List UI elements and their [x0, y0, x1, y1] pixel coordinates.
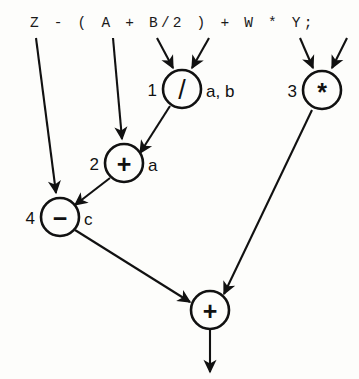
node-4[interactable]: −4c — [26, 198, 93, 236]
edge-w-to-mul — [300, 38, 313, 68]
source-expression: Z - ( A + B/2 ) + W * Y; — [30, 15, 316, 31]
edge-y-to-mul — [332, 38, 347, 68]
expression-dag-svg: Z - ( A + B/2 ) + W * Y; /1a, b+2a*3−4c+ — [0, 0, 359, 379]
node-4-index-label: 4 — [26, 209, 35, 228]
node-3[interactable]: *3 — [288, 71, 341, 109]
node-1[interactable]: /1a, b — [148, 70, 235, 108]
edge-sub-to-plus — [75, 230, 190, 302]
node-4-operator-glyph: − — [53, 204, 68, 232]
node-1-register-label: a, b — [206, 82, 234, 101]
edge-b-to-div — [157, 38, 173, 68]
node-1-index-label: 1 — [148, 81, 157, 100]
nodes-group: /1a, b+2a*3−4c+ — [26, 70, 341, 329]
node-2-register-label: a — [148, 156, 158, 175]
node-3-index-label: 3 — [288, 82, 297, 101]
diagram-canvas: Z - ( A + B/2 ) + W * Y; /1a, b+2a*3−4c+ — [0, 0, 359, 379]
edge-plus2-to-sub — [75, 178, 110, 205]
node-2[interactable]: +2a — [90, 144, 158, 182]
edge-a-to-plus2 — [113, 38, 122, 139]
edge-div-to-plus2 — [140, 106, 170, 153]
node-4-register-label: c — [84, 210, 93, 229]
node-5-operator-glyph: + — [203, 297, 218, 325]
node-5[interactable]: + — [191, 291, 229, 329]
edge-2-to-div — [192, 38, 209, 68]
node-3-operator-glyph: * — [317, 78, 327, 106]
edge-mul-to-plus — [224, 110, 312, 294]
node-2-index-label: 2 — [90, 155, 99, 174]
node-2-operator-glyph: + — [117, 150, 132, 178]
edge-z-to-minus — [36, 38, 56, 193]
node-1-operator-glyph: / — [178, 75, 186, 105]
